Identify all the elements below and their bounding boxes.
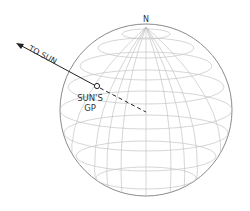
arrow-head-icon [16,43,24,49]
north-label: N [143,15,149,24]
globe-diagram: N TO SUN SUN'S GP [0,0,250,211]
suns-gp-label-line1: SUN'S [77,93,103,103]
to-sun-label: TO SUN [26,43,58,66]
gp-point-icon [94,83,99,88]
suns-gp-label-line2: GP [84,103,96,113]
